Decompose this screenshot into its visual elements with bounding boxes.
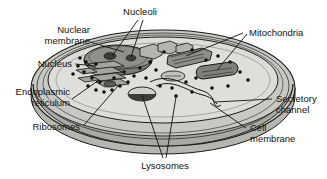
- label-secretory-channel: Secretory channel: [276, 93, 327, 115]
- label-endoplasmic-reticulum-line2: reticulum: [2, 97, 70, 108]
- label-cell-membrane-line1: Cell: [250, 122, 310, 133]
- label-nucleus: Nucleus: [4, 58, 72, 69]
- label-ribosomes-line1: Ribosomes: [32, 121, 80, 132]
- label-cell-membrane: Cell membrane: [250, 122, 310, 144]
- label-nuclear-membrane-line2: membrane: [6, 35, 90, 46]
- label-cell-membrane-line2: membrane: [250, 133, 310, 144]
- label-nucleus-line1: Nucleus: [38, 58, 72, 69]
- label-endoplasmic-reticulum: Endoplasmic reticulum: [2, 86, 70, 108]
- label-lysosomes-line1: Lysosomes: [141, 160, 189, 171]
- label-secretory-channel-line1: Secretory: [276, 93, 327, 104]
- lysosome-1: [128, 87, 156, 101]
- label-nuclear-membrane-line1: Nuclear: [6, 24, 90, 35]
- label-lysosomes: Lysosomes: [120, 160, 210, 171]
- cell-diagram-figure: Nucleoli Nuclear membrane Nucleus Endopl…: [0, 0, 327, 179]
- label-mitochondria: Mitochondria: [249, 27, 327, 38]
- label-mitochondria-line1: Mitochondria: [249, 27, 303, 38]
- label-ribosomes: Ribosomes: [4, 121, 80, 132]
- label-nuclear-membrane: Nuclear membrane: [6, 24, 90, 46]
- label-nucleoli-line1: Nucleoli: [123, 6, 157, 17]
- label-nucleoli: Nucleoli: [104, 6, 176, 17]
- lysosome-2: [104, 81, 116, 87]
- label-secretory-channel-line2: channel: [276, 104, 327, 115]
- label-endoplasmic-reticulum-line1: Endoplasmic: [2, 86, 70, 97]
